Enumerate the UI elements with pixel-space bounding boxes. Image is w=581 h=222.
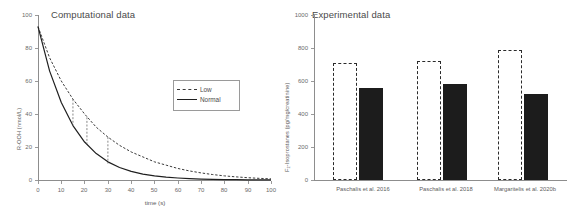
bar-normal-group-2	[524, 94, 548, 180]
experimental-data-panel: Experimental data F₂-Isoprostanes (pg/mg…	[290, 0, 581, 222]
bar-normal-group-0	[359, 88, 383, 180]
category-label-2: Margaritelis et al. 2020b	[470, 186, 580, 193]
bar-normal-group-1	[443, 84, 467, 180]
legend-solid-line-icon	[177, 99, 197, 100]
bar-low-group-2	[498, 50, 522, 180]
bar-low-group-1	[417, 61, 441, 180]
bar-low-group-0	[333, 63, 357, 180]
legend-dashed-line-icon	[177, 89, 197, 90]
figure-container: Computational data R-OOH (nmol/L) 100 80…	[0, 0, 581, 222]
legend-label-normal: Normal	[200, 96, 221, 103]
legend-entry-low: Low	[177, 84, 235, 94]
legend-label-low: Low	[200, 86, 212, 93]
computational-data-panel: Computational data R-OOH (nmol/L) 100 80…	[0, 0, 290, 222]
decay-curves-plot	[0, 0, 290, 222]
legend-entry-normal: Normal	[177, 94, 235, 104]
left-chart-legend: Low Normal	[173, 80, 240, 111]
